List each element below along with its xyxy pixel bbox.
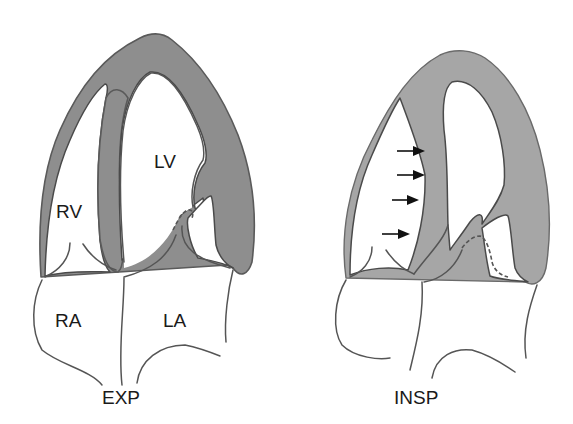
exp-atrial-septum	[121, 278, 124, 385]
exp-la-wall	[225, 270, 233, 342]
insp-ra-wall	[336, 280, 390, 359]
label-la: LA	[163, 310, 187, 331]
panel-inspiration: INSP	[336, 51, 550, 408]
exp-la-roof	[137, 345, 220, 383]
label-lv: LV	[154, 151, 176, 172]
panel-expiration: RV LV RA LA EXP	[34, 34, 255, 408]
insp-la-roof	[432, 350, 515, 378]
label-ra: RA	[55, 310, 82, 331]
label-rv: RV	[56, 201, 82, 222]
caption-insp: INSP	[394, 387, 438, 408]
exp-ra-wall	[34, 280, 102, 385]
caption-exp: EXP	[102, 387, 140, 408]
insp-la-wall	[525, 285, 537, 358]
insp-atrial-septum	[410, 282, 422, 370]
heart-diagram: RV LV RA LA EXP	[0, 0, 573, 424]
